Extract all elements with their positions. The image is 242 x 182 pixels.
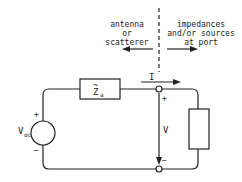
current-label: I [149, 72, 154, 82]
impedance-subscript: a [100, 91, 104, 98]
right-region-label-1: impedances [177, 20, 225, 29]
load-box [189, 109, 209, 149]
circuit-diagram: antenna or scatterer impedances and/or s… [0, 0, 242, 182]
left-region-label-1: antenna [110, 20, 144, 29]
current-arrowhead-icon [173, 79, 181, 85]
bottom-terminal [156, 166, 162, 172]
source-subscript: oc [24, 131, 32, 138]
top-terminal [156, 86, 162, 92]
source-minus: − [34, 146, 39, 155]
left-region-label-2: or [122, 29, 132, 38]
left-region-label-3: scatterer [105, 38, 149, 47]
bottom-wire-left [43, 145, 156, 169]
right-region-label-3: at port [184, 38, 218, 47]
voltage-minus: − [162, 156, 167, 165]
bottom-wire-right [162, 149, 198, 169]
top-wire-left [43, 89, 80, 121]
voltage-source-icon [31, 121, 55, 145]
top-wire-right [162, 89, 198, 109]
impedance-label: Z [93, 87, 99, 97]
voltage-plus: + [162, 94, 167, 103]
right-region-label-2: and/or sources [167, 29, 235, 38]
voltage-label: V [163, 125, 169, 135]
source-plus: + [34, 110, 39, 119]
